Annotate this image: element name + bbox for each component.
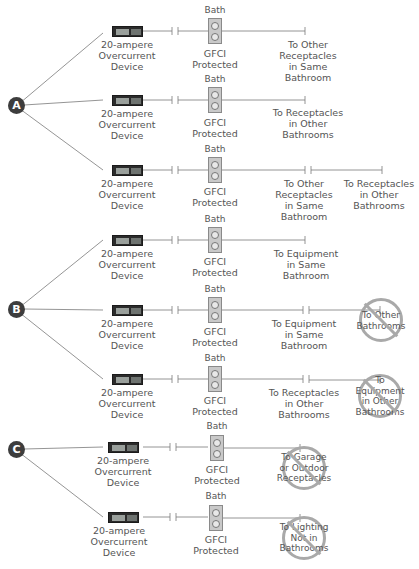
gfci-label: GFCIProtected	[185, 256, 245, 278]
device-label: 20-ampereOvercurrentDevice	[92, 387, 162, 420]
group-badge-c: C	[8, 441, 25, 458]
prohibited-destination: To Equipmentin OtherBathrooms	[358, 374, 402, 418]
receptacle-icon	[208, 157, 222, 183]
destination-label: To Receptaclesin OtherBathrooms	[262, 387, 346, 420]
device-label: 20-ampereOvercurrentDevice	[92, 39, 162, 72]
device-label: 20-ampereOvercurrentDevice	[92, 318, 162, 351]
bath-label: Bath	[196, 491, 236, 501]
receptacle-icon	[208, 87, 222, 113]
prohibited-destination: To OtherBathrooms	[359, 298, 403, 342]
breaker-icon	[108, 442, 139, 453]
receptacle-icon	[208, 366, 222, 392]
gfci-label: GFCIProtected	[187, 464, 247, 486]
destination-label: To OtherReceptaclesin SameBathroom	[262, 178, 346, 222]
device-label: 20-ampereOvercurrentDevice	[88, 455, 158, 488]
breaker-icon	[112, 26, 143, 37]
gfci-label: GFCIProtected	[185, 48, 245, 70]
bath-label: Bath	[195, 144, 235, 154]
device-label: 20-ampereOvercurrentDevice	[92, 108, 162, 141]
prohibited-destination: To LightingNot inBathrooms	[282, 516, 326, 560]
breaker-icon	[112, 374, 143, 385]
receptacle-icon	[210, 435, 224, 461]
bath-label: Bath	[195, 214, 235, 224]
device-label: 20-ampereOvercurrentDevice	[84, 525, 154, 558]
destination-label: To Receptaclesin OtherBathrooms	[339, 178, 419, 211]
breaker-icon	[112, 95, 143, 106]
breaker-icon	[108, 512, 139, 523]
bath-label: Bath	[195, 74, 235, 84]
bath-label: Bath	[197, 421, 237, 431]
bath-label: Bath	[195, 5, 235, 15]
gfci-label: GFCIProtected	[185, 326, 245, 348]
destination-label: To Equipmentin SameBathroom	[262, 318, 346, 351]
gfci-label: GFCIProtected	[186, 534, 246, 556]
receptacle-icon	[209, 505, 223, 531]
destination-label: To OtherReceptaclesin SameBathroom	[266, 39, 350, 83]
device-label: 20-ampereOvercurrentDevice	[92, 178, 162, 211]
device-label: 20-ampereOvercurrentDevice	[92, 248, 162, 281]
receptacle-icon	[208, 297, 222, 323]
breaker-icon	[112, 165, 143, 176]
group-badge-a: A	[8, 97, 25, 114]
prohibited-destination: To Garageor OutdoorReceptacles	[282, 446, 326, 490]
breaker-icon	[112, 305, 143, 316]
destination-label: To Receptaclesin OtherBathrooms	[266, 107, 350, 140]
gfci-label: GFCIProtected	[185, 186, 245, 208]
receptacle-icon	[208, 18, 222, 44]
gfci-label: GFCIProtected	[185, 117, 245, 139]
breaker-icon	[112, 235, 143, 246]
bath-label: Bath	[195, 353, 235, 363]
gfci-label: GFCIProtected	[185, 395, 245, 417]
bath-label: Bath	[195, 284, 235, 294]
receptacle-icon	[208, 227, 222, 253]
destination-label: To Equipmentin SameBathroom	[264, 248, 348, 281]
group-badge-b: B	[8, 301, 25, 318]
